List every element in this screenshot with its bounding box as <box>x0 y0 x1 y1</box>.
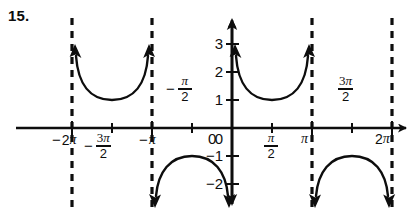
x-tick-label-pi: π <box>301 132 308 146</box>
branch-lower-right <box>316 156 388 196</box>
x-tick-neg-3pi2-num-pi: π <box>103 130 110 145</box>
x-tick-3pi2-fraction: 3π 2 <box>338 74 353 103</box>
x-tick-label-neg-3pi-over-2: − 3π 2 <box>84 131 111 160</box>
x-tick-3pi2-num-pi: π <box>346 73 353 88</box>
branch-upper-right <box>236 56 308 100</box>
y-tick-label-2: 2 <box>205 64 223 79</box>
x-tick-pi2-numerator: π <box>267 131 276 144</box>
x-tick-neg-pi-sign: − <box>139 132 148 147</box>
graph-figure: 15. <box>0 0 418 210</box>
x-tick-pi2-denominator: 2 <box>266 147 275 160</box>
x-tick-2pi-pi: π <box>383 132 390 146</box>
x-tick-label-neg-pi-over-2: − π 2 <box>166 74 192 103</box>
y-tick-label-1: 1 <box>205 92 223 107</box>
y-tick-label-neg2: −2 <box>199 176 223 191</box>
x-tick-2pi-coef: 2 <box>375 132 383 146</box>
y-tick-label-3: 3 <box>205 36 223 51</box>
x-tick-neg-3pi2-numerator: 3π <box>96 131 111 144</box>
x-tick-neg-pi2-denominator: 2 <box>180 90 189 103</box>
x-tick-3pi2-denominator: 2 <box>341 90 350 103</box>
x-tick-label-zero: 0 <box>208 131 216 146</box>
x-tick-neg-pi-pi: π <box>149 133 156 147</box>
x-tick-neg-pi2-fraction: π 2 <box>178 74 192 103</box>
x-tick-neg-3pi2-sign: − <box>84 138 93 153</box>
x-tick-neg-3pi2-denominator: 2 <box>99 147 108 160</box>
x-tick-pi-pi: π <box>301 132 308 146</box>
x-tick-label-2pi: 2π <box>375 132 390 146</box>
y-axis <box>226 18 239 206</box>
branch-upper-left <box>76 56 148 100</box>
x-tick-label-neg-pi: −π <box>139 132 156 147</box>
x-tick-label-3pi-over-2: 3π 2 <box>338 74 353 103</box>
x-tick-neg-3pi2-fraction: 3π 2 <box>96 131 111 160</box>
x-tick-neg-2pi-sign: − <box>52 132 61 147</box>
y-tick-label-neg1: −1 <box>199 148 223 163</box>
x-tick-neg-pi2-sign: − <box>166 81 175 96</box>
x-tick-pi2-fraction: π 2 <box>264 131 278 160</box>
x-tick-label-neg-2pi: −2π <box>52 132 77 147</box>
x-tick-3pi2-numerator: 3π <box>338 74 353 87</box>
x-tick-neg-pi2-numerator: π <box>181 74 190 87</box>
x-tick-label-pi-over-2: π 2 <box>264 131 278 160</box>
x-tick-neg-2pi-pi: π <box>70 133 77 147</box>
x-tick-neg-2pi-coef: 2 <box>62 133 70 147</box>
